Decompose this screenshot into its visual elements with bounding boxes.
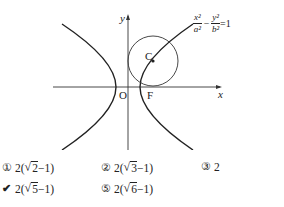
checkmark-icon: ✔ (2, 182, 15, 195)
center-label: C (145, 51, 152, 62)
choice-4-selected[interactable]: ✔ 2(√5−1) (2, 181, 54, 196)
choice-5[interactable]: ⑤ 2(√6−1) (101, 181, 153, 196)
answer-choices: ① 2(√2−1) ② 2(√3−1) ③ 2 ✔ 2(√5−1) ⑤ 2(√6… (0, 160, 284, 202)
hyperbola-figure: y x O F C x² a² − y² b² =1 (0, 0, 284, 150)
choice-1[interactable]: ① 2(√2−1) (2, 160, 54, 175)
origin-label: O (119, 90, 127, 101)
y-axis-label: y (120, 13, 125, 24)
sqrt-icon: √ (25, 181, 32, 196)
y-axis-arrow-icon (126, 14, 130, 20)
hyperbola-equation: x² a² − y² b² =1 (193, 13, 231, 34)
x-fraction: x² a² (193, 13, 202, 34)
sqrt-icon: √ (25, 160, 32, 175)
y-fraction: y² b² (211, 13, 220, 34)
focus-label: F (147, 90, 153, 101)
choice-2[interactable]: ② 2(√3−1) (101, 160, 153, 175)
choice-3[interactable]: ③ 2 (201, 160, 220, 173)
graph-svg (0, 0, 284, 150)
x-axis-label: x (218, 89, 223, 100)
sqrt-icon: √ (124, 160, 131, 175)
sqrt-icon: √ (124, 181, 131, 196)
